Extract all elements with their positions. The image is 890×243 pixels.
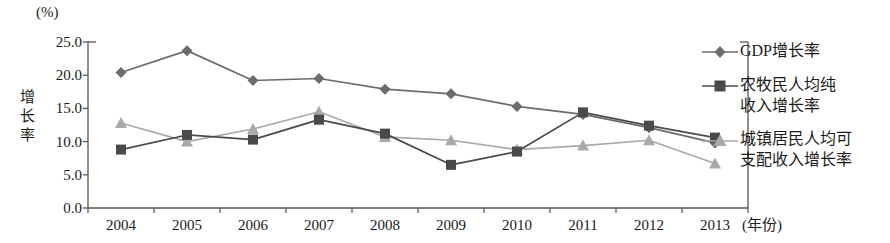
chart-legend: GDP增长率 农牧民人均纯 收入增长率 城镇居民人均可 xyxy=(700,40,890,182)
data-point-diamond xyxy=(446,88,457,99)
legend-item-urban-income: 城镇居民人均可 支配收入增长率 xyxy=(700,128,890,170)
legend-item-rural-income: 农牧民人均纯 收入增长率 xyxy=(700,74,890,116)
legend-label-urban-income-line1: 城镇居民人均可 xyxy=(740,130,852,147)
data-point-square xyxy=(248,135,258,145)
legend-label-rural-income: 农牧民人均纯 收入增长率 xyxy=(740,74,836,116)
growth-rate-line-chart: (%) 增 长 率 0.05.010.015.020.025.0 2004200… xyxy=(0,0,890,243)
data-point-square xyxy=(644,121,654,131)
legend-item-gdp: GDP增长率 xyxy=(700,40,890,62)
data-point-triangle xyxy=(115,117,127,128)
legend-key-triangle-icon xyxy=(700,130,740,150)
data-point-square xyxy=(182,130,192,140)
data-point-square xyxy=(116,145,126,155)
data-point-square xyxy=(380,129,390,139)
data-point-diamond xyxy=(512,101,523,112)
legend-label-rural-income-line1: 农牧民人均纯 xyxy=(740,76,836,93)
legend-label-gdp: GDP增长率 xyxy=(740,40,820,61)
series-line-diamond xyxy=(121,51,715,143)
data-point-diamond xyxy=(248,75,259,86)
legend-key-square-icon xyxy=(700,76,740,96)
data-point-diamond xyxy=(314,73,325,84)
data-point-square xyxy=(512,147,522,157)
data-point-diamond xyxy=(380,84,391,95)
data-point-square xyxy=(314,115,324,125)
data-point-diamond xyxy=(182,45,193,56)
data-point-square xyxy=(446,160,456,170)
legend-label-urban-income-line2: 支配收入增长率 xyxy=(740,151,852,168)
legend-label-urban-income: 城镇居民人均可 支配收入增长率 xyxy=(740,128,852,170)
data-point-square xyxy=(578,107,588,117)
data-point-diamond xyxy=(116,67,127,78)
legend-key-diamond-icon xyxy=(700,42,740,62)
legend-label-rural-income-line2: 收入增长率 xyxy=(740,97,820,114)
series-line-triangle xyxy=(121,112,715,164)
